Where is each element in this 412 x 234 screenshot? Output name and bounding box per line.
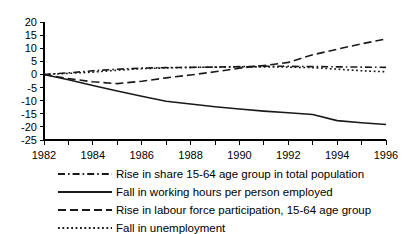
chart-container: 20151050-5-10-15-20-25 19821984198619881… (0, 0, 412, 234)
y-axis-tick-labels: 20151050-5-10-15-20-25 (21, 16, 37, 146)
x-tick-label: 1986 (129, 149, 153, 161)
y-tick-label: 5 (31, 55, 37, 67)
y-tick-label: 0 (31, 68, 37, 80)
x-tick-label: 1996 (374, 149, 398, 161)
legend-label-0: Rise in share 15-64 age group in total p… (116, 168, 364, 180)
legend-label-1: Fall in working hours per person employe… (116, 186, 333, 198)
y-tick-label: 20 (25, 16, 37, 28)
line-chart: 20151050-5-10-15-20-25 19821984198619881… (0, 0, 412, 234)
x-tick-label: 1982 (32, 149, 56, 161)
x-tick-label: 1988 (178, 149, 202, 161)
y-tick-label: -20 (21, 121, 37, 133)
x-tick-label: 1992 (276, 149, 300, 161)
y-tick-label: -15 (21, 108, 37, 120)
legend-label-3: Fall in unemployment (116, 222, 226, 234)
series-line-0 (44, 66, 386, 74)
x-tick-label: 1990 (227, 149, 251, 161)
y-tick-label: 15 (25, 29, 37, 41)
y-tick-label: 10 (25, 42, 37, 54)
series-line-3 (44, 67, 386, 75)
x-tick-label: 1984 (81, 149, 105, 161)
series-line-2 (44, 39, 386, 84)
x-axis-tick-labels: 19821984198619881990199219941996 (32, 149, 398, 161)
x-tick-label: 1994 (325, 149, 349, 161)
chart-legend: Rise in share 15-64 age group in total p… (58, 168, 371, 234)
chart-axes (40, 22, 386, 145)
data-series-group (44, 39, 386, 124)
y-tick-label: -5 (27, 82, 37, 94)
y-tick-label: -10 (21, 95, 37, 107)
legend-label-2: Rise in labour force participation, 15-6… (116, 204, 371, 216)
y-tick-label: -25 (21, 134, 37, 146)
